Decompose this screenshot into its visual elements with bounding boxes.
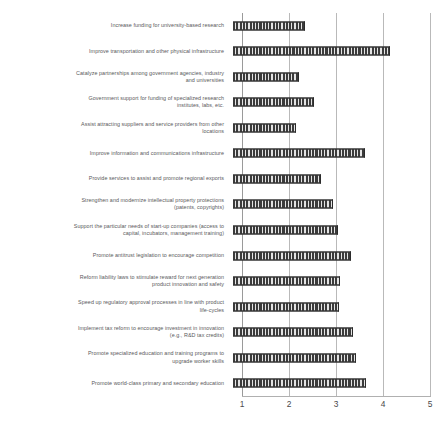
x-tick-label: 1: [232, 399, 252, 409]
bar: [233, 21, 305, 30]
chart-row: Promote antitrust legislation to encoura…: [0, 243, 447, 269]
chart-row: Improve transportation and other physica…: [0, 39, 447, 65]
category-label: Reform liability laws to stimulate rewar…: [0, 274, 233, 288]
bar-rows: Increase funding for university-based re…: [0, 13, 447, 396]
category-label: Promote world-class primary and secondar…: [0, 380, 233, 387]
bar-cell: [233, 166, 447, 192]
category-label: Speed up regulatory approval processes i…: [0, 299, 233, 313]
category-label: Increase funding for university-based re…: [0, 22, 233, 29]
chart-row: Improve information and communications i…: [0, 141, 447, 167]
bar: [233, 47, 390, 56]
bar-cell: [233, 268, 447, 294]
bar: [233, 72, 299, 81]
category-label: Improve information and communications i…: [0, 150, 233, 157]
category-label: Improve transportation and other physica…: [0, 48, 233, 55]
bar: [233, 302, 339, 311]
bar-cell: [233, 64, 447, 90]
bar-cell: [233, 90, 447, 116]
bar: [233, 328, 353, 337]
category-label: Strengthen and modernize intellectual pr…: [0, 197, 233, 211]
chart-row: Government support for funding of specia…: [0, 90, 447, 116]
category-label: Support the particular needs of start-up…: [0, 223, 233, 237]
bar: [233, 379, 366, 388]
category-label: Implement tax reform to encourage invest…: [0, 325, 233, 339]
x-tick-label: 5: [420, 399, 440, 409]
chart-row: Assist attracting suppliers and service …: [0, 115, 447, 141]
bar-cell: [233, 39, 447, 65]
category-label: Provide services to assist and promote r…: [0, 175, 233, 182]
bar-cell: [233, 192, 447, 218]
chart-row: Promote world-class primary and secondar…: [0, 370, 447, 396]
bar: [233, 277, 340, 286]
chart-row: Reform liability laws to stimulate rewar…: [0, 268, 447, 294]
chart-row: Increase funding for university-based re…: [0, 13, 447, 39]
chart-row: Promote specialized education and traini…: [0, 345, 447, 371]
bar: [233, 251, 351, 260]
x-tick-label: 2: [279, 399, 299, 409]
bar: [233, 149, 365, 158]
x-axis-tick-labels: 12345: [0, 399, 447, 417]
bar-cell: [233, 294, 447, 320]
bar-cell: [233, 115, 447, 141]
category-label: Promote antitrust legislation to encoura…: [0, 252, 233, 259]
category-label: Promote specialized education and traini…: [0, 350, 233, 364]
category-label: Catalyze partnerships among government a…: [0, 70, 233, 84]
x-tick-label: 4: [373, 399, 393, 409]
horizontal-bar-chart: Increase funding for university-based re…: [0, 0, 447, 437]
bar-cell: [233, 319, 447, 345]
category-label: Assist attracting suppliers and service …: [0, 121, 233, 135]
chart-row: Strengthen and modernize intellectual pr…: [0, 192, 447, 218]
x-tick-label: 3: [326, 399, 346, 409]
bar-cell: [233, 141, 447, 167]
bar: [233, 123, 296, 132]
chart-row: Speed up regulatory approval processes i…: [0, 294, 447, 320]
chart-row: Implement tax reform to encourage invest…: [0, 319, 447, 345]
bar: [233, 200, 333, 209]
bar: [233, 353, 356, 362]
chart-row: Support the particular needs of start-up…: [0, 217, 447, 243]
bar: [233, 226, 338, 235]
bar: [233, 98, 314, 107]
chart-row: Catalyze partnerships among government a…: [0, 64, 447, 90]
bar-cell: [233, 13, 447, 39]
bar-cell: [233, 217, 447, 243]
bar-cell: [233, 370, 447, 396]
chart-row: Provide services to assist and promote r…: [0, 166, 447, 192]
category-label: Government support for funding of specia…: [0, 95, 233, 109]
x-axis-baseline: [242, 396, 431, 397]
bar-cell: [233, 243, 447, 269]
bar-cell: [233, 345, 447, 371]
bar: [233, 174, 321, 183]
